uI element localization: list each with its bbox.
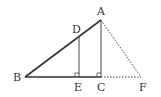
point-label-a: A [96, 5, 106, 18]
point-label-f: F [139, 81, 147, 94]
point-label-c: C [97, 81, 105, 94]
segment-af [101, 20, 141, 77]
segment-ab [25, 20, 101, 77]
geometry-diagram: A B C D E F [0, 0, 161, 97]
point-label-d: D [72, 23, 81, 36]
point-label-e: E [74, 81, 82, 94]
point-label-b: B [13, 71, 21, 84]
